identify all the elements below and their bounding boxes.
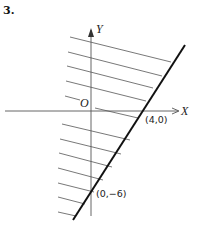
y-axis-label: Y — [96, 22, 104, 36]
x-axis-label: X — [180, 104, 189, 118]
boundary-line — [73, 45, 185, 220]
origin-label: O — [80, 96, 89, 110]
inequality-graph: 3. Y X O (4,0) (0,−6) — [0, 0, 202, 239]
point-label-4-0: (4,0) — [145, 114, 168, 125]
point-label-0-neg6: (0,−6) — [96, 188, 126, 199]
problem-number: 3. — [3, 4, 14, 17]
y-axis-arrow-icon — [88, 28, 94, 37]
